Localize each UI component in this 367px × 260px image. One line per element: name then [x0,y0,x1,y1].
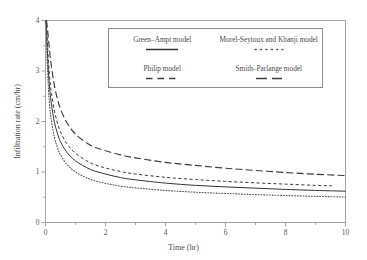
legend-label-philip: Philip model [144,65,182,73]
legend-label-morel-seytoux: Morel-Seytoux and Khanji model [220,36,318,44]
chart-legend: Green–Ampt model Morel-Seytoux and Khanj… [108,28,323,88]
legend-swatch-smith-parlange [249,77,289,80]
y-axis-title: Infiltration rate (cm/hr) [13,57,22,187]
legend-entry-green-ampt: Green–Ampt model [109,29,216,58]
y-tick-label: 0 [26,218,40,227]
x-tick-label: 8 [276,228,296,237]
legend-label-smith-parlange: Smith–Parlange model [235,65,302,73]
infiltration-rate-chart: 024681001234 Time (hr) Infiltration rate… [0,0,367,260]
x-tick-label: 4 [156,228,176,237]
legend-entry-smith-parlange: Smith–Parlange model [216,58,323,87]
x-tick-label: 6 [216,228,236,237]
legend-swatch-green-ampt [142,48,182,51]
y-tick-label: 2 [26,117,40,126]
x-axis-title: Time (hr) [0,243,367,252]
legend-label-green-ampt: Green–Ampt model [133,36,191,44]
x-tick-label: 2 [96,228,116,237]
x-tick-label: 10 [336,228,356,237]
y-tick-label: 4 [26,16,40,25]
x-tick-label: 0 [36,228,56,237]
legend-entry-morel-seytoux: Morel-Seytoux and Khanji model [216,29,323,58]
legend-swatch-morel-seytoux [249,48,289,51]
legend-swatch-philip [142,77,182,80]
y-tick-label: 1 [26,167,40,176]
y-tick-label: 3 [26,66,40,75]
legend-entry-philip: Philip model [109,58,216,87]
